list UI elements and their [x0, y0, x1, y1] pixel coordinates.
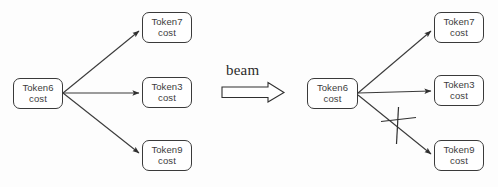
right-child-node-token3[interactable]: Token3 cost [434, 75, 484, 106]
left-child-node-token9[interactable]: Token9 cost [142, 140, 192, 171]
node-label-line1: Token6 [22, 83, 53, 94]
node-label-line1: Token3 [151, 82, 182, 93]
right-child-node-token7[interactable]: Token7 cost [434, 12, 484, 43]
beam-block-arrow [222, 83, 284, 103]
diagram-canvas: beam Token6 cost Token7 cost Token3 cost… [0, 0, 498, 187]
edge-right-root-to-token3 [358, 91, 431, 93]
node-label-line2: cost [158, 28, 176, 39]
edge-left-root-to-token7 [63, 31, 139, 93]
left-child-node-token3[interactable]: Token3 cost [142, 77, 192, 108]
node-label-line2: cost [324, 94, 342, 105]
node-label-line1: Token7 [151, 17, 182, 28]
edge-left-root-to-token9 [63, 93, 139, 153]
node-label-line1: Token7 [443, 17, 474, 28]
edge-right-root-to-token9 [358, 95, 431, 154]
cross-mark-icon [381, 107, 416, 144]
node-label-line2: cost [450, 156, 468, 167]
left-root-node-token6[interactable]: Token6 cost [13, 78, 63, 109]
node-label-line1: Token3 [443, 80, 474, 91]
diagram-edges-layer [0, 0, 498, 187]
node-label-line1: Token9 [443, 145, 474, 156]
node-label-line2: cost [29, 94, 47, 105]
node-label-line2: cost [158, 156, 176, 167]
node-label-line2: cost [450, 91, 468, 102]
right-child-node-token9[interactable]: Token9 cost [434, 140, 484, 171]
left-child-node-token7[interactable]: Token7 cost [142, 12, 192, 43]
right-root-node-token6[interactable]: Token6 cost [307, 78, 358, 109]
node-label-line2: cost [450, 28, 468, 39]
right-graph-edges [358, 31, 431, 154]
node-label-line2: cost [158, 93, 176, 104]
edge-right-root-to-token7 [358, 31, 431, 93]
node-label-line1: Token9 [151, 145, 182, 156]
beam-transition-label: beam [226, 62, 259, 79]
left-graph-edges [63, 31, 139, 153]
node-label-line1: Token6 [317, 83, 348, 94]
